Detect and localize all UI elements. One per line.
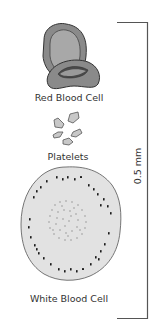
platelets-illustration bbox=[53, 112, 82, 145]
white-blood-cell-illustration bbox=[21, 167, 121, 280]
red-blood-cell-label: Red Blood Cell bbox=[35, 92, 104, 103]
scale-bar-label: 0.5 mm bbox=[132, 148, 143, 185]
platelets-label: Platelets bbox=[48, 151, 89, 162]
white-blood-cell-label: White Blood Cell bbox=[30, 293, 108, 304]
red-blood-cell-illustration bbox=[43, 24, 100, 89]
